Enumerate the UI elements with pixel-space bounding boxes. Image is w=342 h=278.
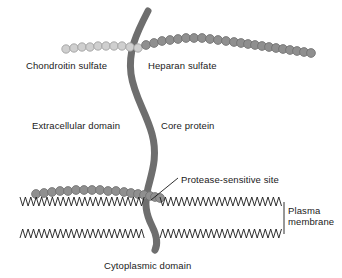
chondroitin-sulfate-chain <box>62 42 142 53</box>
label-core-protein: Core protein <box>161 120 214 131</box>
membrane-outer-leaflet <box>20 197 144 206</box>
heparan-sulfate-bead <box>166 36 175 45</box>
label-chondroitin-sulfate: Chondroitin sulfate <box>26 60 107 71</box>
heparan-sulfate-chain <box>142 34 316 58</box>
label-plasma-membrane-line2: membrane <box>288 216 334 227</box>
heparan-sulfate-bead <box>190 34 199 43</box>
chondroitin-sulfate-bead <box>86 43 94 51</box>
membrane-inner-leaflet <box>160 229 282 238</box>
heparan-sulfate-bead <box>64 187 73 196</box>
heparan-sulfate-bead <box>112 187 121 196</box>
label-plasma-membrane: Plasma membrane <box>288 205 334 227</box>
heparan-sulfate-bead <box>174 35 183 44</box>
heparan-sulfate-bead <box>206 35 215 44</box>
chondroitin-sulfate-bead <box>118 42 126 50</box>
leader-lines <box>151 178 284 234</box>
diagram-canvas <box>0 0 342 278</box>
heparan-sulfate-bead <box>48 188 57 197</box>
heparan-sulfate-bead <box>56 187 65 196</box>
proteoglycan-diagram: Chondroitin sulfate Heparan sulfate Extr… <box>0 0 342 278</box>
chondroitin-sulfate-bead <box>70 44 78 52</box>
chondroitin-sulfate-bead <box>110 42 118 50</box>
chondroitin-sulfate-bead <box>126 43 134 51</box>
membrane-inner-leaflet <box>20 229 144 238</box>
chondroitin-sulfate-bead <box>78 43 86 51</box>
heparan-sulfate-bead <box>307 49 316 58</box>
label-cytoplasmic-domain: Cytoplasmic domain <box>104 260 191 271</box>
heparan-sulfate-bead <box>142 41 151 50</box>
heparan-sulfate-bead <box>150 39 159 48</box>
chondroitin-sulfate-bead <box>102 42 110 50</box>
label-heparan-sulfate: Heparan sulfate <box>148 60 217 71</box>
heparan-sulfate-bead <box>158 37 167 46</box>
heparan-sulfate-bead <box>104 187 113 196</box>
heparan-sulfate-bead <box>182 34 191 43</box>
heparan-sulfate-bead <box>72 186 81 195</box>
heparan-sulfate-bead <box>96 186 105 195</box>
heparan-sulfate-bead <box>222 37 231 46</box>
label-extracellular-domain: Extracellular domain <box>32 120 120 131</box>
heparan-sulfate-bead <box>198 34 207 43</box>
chondroitin-sulfate-bead <box>94 42 102 50</box>
label-protease-sensitive-site: Protease-sensitive site <box>181 174 279 185</box>
heparan-sulfate-bead <box>88 186 97 195</box>
heparan-sulfate-bead <box>214 36 223 45</box>
chondroitin-sulfate-bead <box>134 44 142 52</box>
membrane-outer-leaflet <box>160 197 282 206</box>
heparan-sulfate-bead <box>80 186 89 195</box>
label-plasma-membrane-line1: Plasma <box>288 205 334 216</box>
chondroitin-sulfate-bead <box>62 45 70 53</box>
